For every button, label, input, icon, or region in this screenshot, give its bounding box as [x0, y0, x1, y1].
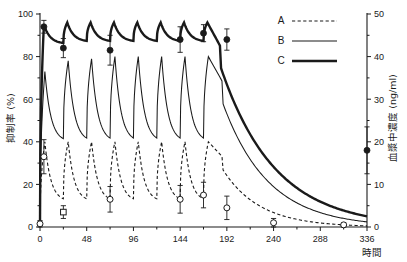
x-axis-tick-label: 48: [82, 234, 92, 244]
y-axis-right-tick-label: 20: [374, 137, 384, 147]
data-point-marker-A: [341, 222, 347, 228]
x-axis-tick-label: 144: [173, 234, 188, 244]
data-point-marker-plasma-concentration-point: [364, 147, 370, 153]
x-axis-tick-label: 288: [313, 234, 328, 244]
data-point-marker-C: [177, 37, 183, 43]
legend-item-c-label: C: [277, 55, 284, 66]
y-axis-right-title: 血漿中濃度 (ng/ml): [387, 74, 398, 162]
x-axis-title: 時間: [362, 247, 382, 258]
inhibition-plasma-concentration-chart: 0489614419224028833602040608010001020304…: [0, 0, 407, 262]
data-point-marker-A: [61, 209, 67, 215]
y-axis-right-tick-label: 40: [374, 52, 384, 62]
data-point-marker-A: [177, 196, 183, 202]
y-axis-left-tick-label: 80: [23, 52, 33, 62]
legend-item-b-label: B: [278, 35, 285, 46]
data-point-marker-C: [41, 24, 47, 30]
x-axis-tick-label: 96: [128, 234, 138, 244]
y-axis-left-tick-label: 60: [23, 95, 33, 105]
data-point-marker-C: [224, 37, 230, 43]
y-axis-left-title: 抑制率 (%): [5, 93, 16, 142]
data-point-marker-A: [41, 154, 47, 160]
y-axis-right-tick-label: 30: [374, 95, 384, 105]
data-point-marker-A: [271, 220, 277, 226]
x-axis-tick-label: 0: [37, 234, 42, 244]
data-point-marker-A: [37, 221, 43, 227]
legend-item-a-label: A: [278, 15, 285, 26]
y-axis-left-tick-label: 100: [18, 9, 33, 19]
y-axis-left-tick-label: 0: [28, 222, 33, 232]
data-point-marker-C: [201, 30, 207, 36]
x-axis-tick-label: 240: [266, 234, 281, 244]
x-axis-tick-label: 336: [359, 234, 374, 244]
y-axis-right-tick-label: 0: [374, 222, 379, 232]
data-point-marker-A: [201, 192, 207, 198]
chart-figure: 0489614419224028833602040608010001020304…: [0, 0, 407, 262]
y-axis-right-tick-label: 50: [374, 9, 384, 19]
data-point-marker-A: [224, 205, 230, 211]
x-axis-tick-label: 192: [219, 234, 234, 244]
y-axis-right-tick-label: 10: [374, 180, 384, 190]
data-point-marker-C: [107, 47, 113, 53]
y-axis-left-tick-label: 40: [23, 137, 33, 147]
y-axis-left-tick-label: 20: [23, 180, 33, 190]
data-point-marker-C: [60, 45, 66, 51]
data-point-marker-A: [107, 196, 113, 202]
